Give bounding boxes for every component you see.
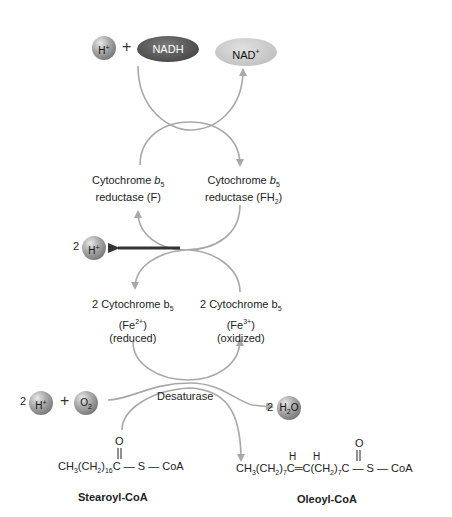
o2-sphere: O2 [74, 391, 98, 415]
plus-sign-top: + [122, 38, 131, 56]
reductase-top-arc [140, 122, 240, 165]
cytochrome-oxidized-label: 2 Cytochrome b5 (Fe3+) (oxidized) [200, 298, 282, 345]
h-plus-sphere-top: H+ [92, 36, 116, 60]
cyt-from-oxidized-arc [190, 250, 240, 292]
nad-plus-ellipse: NAD+ [215, 38, 277, 66]
oleoyl-formula: CH3(CH2)7C═C(CH2)7C — S — CoA [236, 462, 412, 476]
h-plus-sphere-released: H+ [82, 236, 106, 260]
stearoyl-carbonyl-o: O [115, 435, 124, 447]
stearoyl-formula: CH3(CH2)16C — S — CoA [58, 460, 184, 474]
oleoyl-h2: H [313, 451, 320, 462]
desaturase-label: Desaturase [157, 390, 213, 403]
oleoyl-coa-name: Oleoyl-CoA [297, 493, 357, 505]
water-sphere: H2O [277, 396, 301, 420]
cyt-bottom-arc [133, 340, 240, 380]
desaturase-h-coefficient: 2 [20, 395, 26, 407]
reaction-curves [0, 0, 452, 517]
nadh-ellipse: NADH [137, 36, 199, 62]
stearoyl-coa-name: Stearoyl-CoA [78, 491, 148, 503]
reductase-bottom-arc [138, 205, 240, 250]
water-coefficient: 2 [267, 401, 273, 413]
h-plus-sphere-desaturase: H+ [29, 391, 53, 415]
cytochrome-reduced-label: 2 Cytochrome b5 (Fe2+) (reduced) [92, 298, 174, 345]
nadh-to-nad-arc [138, 66, 243, 130]
plus-sign-desaturase: + [60, 392, 69, 410]
cyt-reduce-arc [135, 250, 185, 288]
oleoyl-carbonyl-o: O [355, 437, 364, 449]
proton-out-coefficient: 2 [73, 240, 79, 252]
reductase-fh2-label: Cytochrome b5 reductase (FH2) [205, 174, 282, 208]
reductase-f-label: Cytochrome b5 reductase (F) [92, 174, 164, 204]
oleoyl-h1: H [289, 451, 296, 462]
